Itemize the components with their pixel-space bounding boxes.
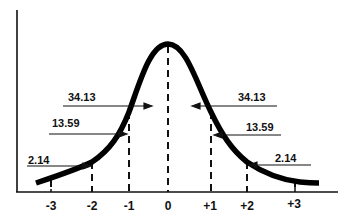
x-tick-label: -3 xyxy=(46,200,57,212)
x-tick-label: -1 xyxy=(124,200,135,212)
x-tick-label: 0 xyxy=(165,200,172,212)
label-right-2-14: 2.14 xyxy=(275,153,296,164)
label-left-13-59: 13.59 xyxy=(52,118,80,129)
x-tick-label: +1 xyxy=(203,200,217,212)
label-left-2-14: 2.14 xyxy=(28,155,49,166)
x-tick-label: +3 xyxy=(287,198,301,210)
label-right-34-13: 34.13 xyxy=(238,92,266,103)
x-tick-label: +2 xyxy=(240,200,254,212)
normal-distribution-chart xyxy=(0,0,347,219)
label-left-34-13: 34.13 xyxy=(68,92,96,103)
label-right-13-59: 13.59 xyxy=(246,122,274,133)
x-tick-label: -2 xyxy=(87,200,98,212)
